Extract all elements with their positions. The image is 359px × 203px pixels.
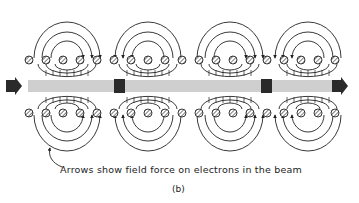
electron-bunch <box>114 79 125 93</box>
coil-turn-bottom <box>93 109 101 117</box>
coil-turn-top <box>161 56 169 64</box>
coil-turn-top <box>246 56 254 64</box>
coil-turn-bottom <box>76 109 84 117</box>
coil-turn-top <box>110 56 118 64</box>
coil-turn-top <box>297 56 305 64</box>
coil-turn-bottom <box>314 109 322 117</box>
coil-turn-bottom <box>161 109 169 117</box>
figure: Arrows show field force on electrons in … <box>0 0 359 203</box>
coil-turn-top <box>331 56 339 64</box>
coil-turn-top <box>195 56 203 64</box>
coil-turn-top <box>42 56 50 64</box>
coil-turn-bottom <box>263 109 271 117</box>
coil-turn-bottom <box>110 109 118 117</box>
coil-turn-bottom <box>178 109 186 117</box>
coil-turn-top <box>314 56 322 64</box>
coil-turn-top <box>127 56 135 64</box>
coil-turn-top <box>25 56 33 64</box>
coil-turn-top <box>229 56 237 64</box>
coil-turn-bottom <box>59 109 67 117</box>
coil-turn-bottom <box>212 109 220 117</box>
coil-turn-top <box>263 56 271 64</box>
coil-turn-top <box>178 56 186 64</box>
coil-turn-bottom <box>127 109 135 117</box>
caption: Arrows show field force on electrons in … <box>60 164 302 175</box>
coil-turn-bottom <box>280 109 288 117</box>
coil-turn-bottom <box>195 109 203 117</box>
coil-turn-bottom <box>25 109 33 117</box>
coil-turn-top <box>76 56 84 64</box>
coil-turn-bottom <box>229 109 237 117</box>
coil-turn-bottom <box>144 109 152 117</box>
coil-turn-top <box>59 56 67 64</box>
coil-turn-bottom <box>331 109 339 117</box>
coil-turn-top <box>93 56 101 64</box>
coil-turn-bottom <box>297 109 305 117</box>
figure-label: (b) <box>172 184 185 194</box>
coil-turn-top <box>212 56 220 64</box>
coil-turn-top <box>144 56 152 64</box>
electron-beam <box>28 79 338 93</box>
electron-bunch <box>261 79 272 93</box>
coil-turn-bottom <box>246 109 254 117</box>
coil-turn-bottom <box>42 109 50 117</box>
coil-turn-top <box>280 56 288 64</box>
